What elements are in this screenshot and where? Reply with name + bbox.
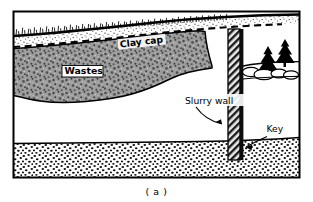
wastes-label-group: Wastes [62,65,103,77]
figure-caption: ( a ) [145,186,167,197]
figure-container: Clay cap Wastes Slurry wall Key ( a ) [0,0,313,202]
slurry-wall-label: Slurry wall [185,95,233,106]
key-label: Key [267,123,284,134]
slurry-wall-label-group: Slurry wall [184,94,244,106]
wastes-label: Wastes [65,65,104,76]
key-label-group: Key [265,122,291,134]
landfill-cross-section-diagram: Clay cap Wastes Slurry wall Key ( a ) [0,0,313,202]
